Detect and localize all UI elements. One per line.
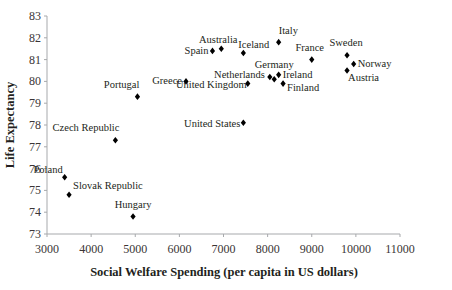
point-label: United States bbox=[184, 118, 240, 129]
diamond-marker-icon bbox=[272, 76, 277, 83]
diamond-marker-icon bbox=[210, 48, 215, 55]
y-tick-label: 77 bbox=[29, 140, 41, 154]
diamond-marker-icon bbox=[62, 174, 67, 181]
data-point-portugal: Portugal bbox=[104, 79, 140, 100]
diamond-marker-icon bbox=[66, 191, 71, 198]
point-label: Australia bbox=[199, 34, 238, 45]
data-point-finland: Finland bbox=[280, 80, 319, 92]
x-tick-label: 8000 bbox=[256, 242, 280, 256]
data-point-united-kingdom: United Kingdom bbox=[176, 79, 250, 90]
point-label: Norway bbox=[358, 58, 393, 69]
point-label: Netherlands bbox=[214, 69, 265, 80]
y-tick-label: 80 bbox=[29, 74, 41, 88]
data-point-norway: Norway bbox=[351, 58, 392, 69]
x-tick-label: 6000 bbox=[167, 242, 191, 256]
diamond-marker-icon bbox=[276, 39, 281, 46]
x-tick-label: 4000 bbox=[79, 242, 103, 256]
y-tick-label: 75 bbox=[29, 183, 41, 197]
data-point-iceland: Iceland bbox=[238, 39, 270, 56]
point-label: Finland bbox=[287, 82, 320, 93]
y-tick-label: 83 bbox=[29, 9, 41, 23]
data-point-netherlands: Netherlands bbox=[214, 69, 272, 80]
data-point-ireland: Ireland bbox=[276, 69, 313, 80]
data-point-poland: Poland bbox=[33, 164, 67, 180]
point-label: Spain bbox=[185, 45, 210, 56]
diamond-marker-icon bbox=[309, 56, 314, 63]
x-axis-title: Social Welfare Spending (per capita in U… bbox=[90, 265, 358, 279]
diamond-marker-icon bbox=[219, 45, 224, 52]
diamond-marker-icon bbox=[344, 52, 349, 59]
y-axis: 7374757677787980818283 bbox=[29, 9, 47, 241]
x-axis: 30004000500060007000800090001000011000 bbox=[35, 234, 415, 256]
diamond-marker-icon bbox=[267, 74, 272, 81]
y-tick-label: 78 bbox=[29, 118, 41, 132]
point-label: Czech Republic bbox=[53, 122, 120, 133]
y-tick-label: 73 bbox=[29, 227, 41, 241]
point-label: United Kingdom bbox=[176, 79, 247, 90]
diamond-marker-icon bbox=[280, 80, 285, 87]
point-label: Italy bbox=[279, 25, 299, 36]
y-tick-label: 82 bbox=[29, 31, 41, 45]
y-tick-label: 79 bbox=[29, 96, 41, 110]
data-point-united-states: United States bbox=[184, 118, 246, 129]
data-point-sweden: Sweden bbox=[329, 37, 363, 58]
x-tick-label: 9000 bbox=[300, 242, 324, 256]
y-axis-title: Life Expectancy bbox=[3, 81, 17, 168]
diamond-marker-icon bbox=[113, 137, 118, 144]
x-tick-label: 3000 bbox=[35, 242, 59, 256]
x-tick-label: 11000 bbox=[385, 242, 415, 256]
point-label: Poland bbox=[33, 164, 63, 175]
diamond-marker-icon bbox=[276, 72, 281, 79]
point-label: Hungary bbox=[115, 199, 152, 210]
point-label: France bbox=[295, 42, 324, 53]
data-point-france: France bbox=[295, 42, 324, 63]
data-point-spain: Spain bbox=[185, 45, 216, 56]
data-points: PolandSlovak RepublicHungaryCzech Republ… bbox=[33, 25, 392, 220]
point-label: Sweden bbox=[329, 37, 363, 48]
data-point-hungary: Hungary bbox=[115, 199, 152, 220]
x-tick-label: 7000 bbox=[212, 242, 236, 256]
point-label: Portugal bbox=[104, 79, 140, 90]
x-tick-label: 10000 bbox=[341, 242, 371, 256]
point-label: Ireland bbox=[283, 69, 313, 80]
data-point-slovak-republic: Slovak Republic bbox=[66, 180, 143, 198]
scatter-chart: 7374757677787980818283 30004000500060007… bbox=[0, 0, 452, 290]
data-point-czech-republic: Czech Republic bbox=[53, 122, 120, 143]
x-tick-label: 5000 bbox=[123, 242, 147, 256]
point-label: Iceland bbox=[238, 39, 270, 50]
diamond-marker-icon bbox=[351, 61, 356, 68]
point-label: Slovak Republic bbox=[73, 180, 143, 191]
data-point-austria: Austria bbox=[344, 67, 379, 82]
diamond-marker-icon bbox=[135, 93, 140, 100]
diamond-marker-icon bbox=[241, 120, 246, 127]
y-tick-label: 81 bbox=[29, 53, 41, 67]
diamond-marker-icon bbox=[130, 213, 135, 220]
diamond-marker-icon bbox=[241, 50, 246, 57]
point-label: Austria bbox=[348, 72, 379, 83]
y-tick-label: 74 bbox=[29, 205, 41, 219]
